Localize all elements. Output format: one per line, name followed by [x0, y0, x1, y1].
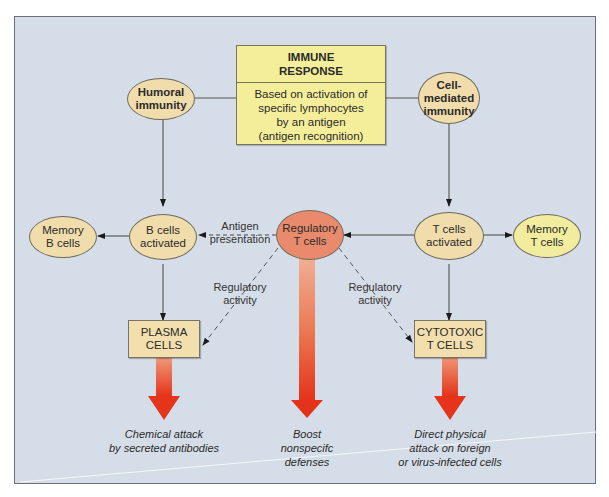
outcome-direct-attack: Direct physical attack on foreign or vir… — [395, 427, 505, 469]
memory-b-cells-node: Memory B cells — [29, 216, 97, 258]
outcome-line: Chemical attack — [104, 427, 224, 441]
outcome-line: Direct physical — [395, 427, 505, 441]
outcome-chemical-attack: Chemical attack by secreted antibodies — [104, 427, 224, 455]
red-arrow-plasma — [148, 358, 180, 420]
label-line: Antigen — [205, 220, 275, 233]
immune-response-description: Based on activation of specific lymphocy… — [237, 83, 385, 143]
node-label: T cells — [432, 223, 465, 236]
node-label: B cells — [146, 224, 180, 237]
node-label: activated — [426, 236, 472, 249]
regulatory-activity-right-label: Regulatory activity — [340, 281, 410, 307]
node-label: CELLS — [146, 339, 182, 352]
humoral-immunity-node: Humoral immunity — [127, 78, 195, 120]
antigen-presentation-label: Antigen presentation — [205, 220, 275, 246]
label-line: Regulatory — [205, 281, 275, 294]
label-line: activity — [340, 294, 410, 307]
cytotoxic-t-cells-box: CYTOTOXIC T CELLS — [414, 320, 486, 358]
node-label: Cell- — [437, 79, 462, 92]
node-label: mediated — [424, 92, 475, 105]
node-label: immunity — [135, 99, 186, 112]
outcome-line: Boost — [267, 427, 347, 441]
node-label: T cells — [293, 235, 326, 248]
node-label: T cells — [530, 236, 563, 249]
node-label: T CELLS — [427, 339, 473, 352]
node-label: Memory — [42, 224, 84, 237]
description-line: Based on activation of — [237, 87, 385, 101]
description-line: (antigen recognition) — [237, 129, 385, 143]
label-line: Regulatory — [340, 281, 410, 294]
node-label: activated — [140, 237, 186, 250]
node-label: immunity — [423, 105, 474, 118]
node-label: Humoral — [138, 86, 185, 99]
outcome-line: attack on foreign — [395, 441, 505, 455]
immune-response-box: IMMUNE RESPONSE Based on activation of s… — [236, 45, 386, 145]
red-arrow-cytotoxic — [434, 356, 466, 420]
label-line: activity — [205, 294, 275, 307]
plasma-cells-box: PLASMA CELLS — [128, 320, 200, 358]
red-arrow-regulatory — [291, 256, 323, 418]
node-label: B cells — [46, 237, 80, 250]
title-line: RESPONSE — [279, 64, 343, 78]
node-label: Memory — [526, 223, 568, 236]
description-line: specific lymphocytes — [237, 101, 385, 115]
regulatory-t-cells-node: Regulatory T cells — [276, 210, 344, 260]
outcome-line: defenses — [267, 455, 347, 469]
outcome-line: by secreted antibodies — [104, 441, 224, 455]
t-cells-activated-node: T cells activated — [414, 212, 484, 260]
cell-mediated-immunity-node: Cell- mediated immunity — [418, 72, 480, 124]
memory-t-cells-node: Memory T cells — [513, 214, 581, 258]
regulatory-activity-left-label: Regulatory activity — [205, 281, 275, 307]
immune-response-title: IMMUNE RESPONSE — [237, 46, 385, 83]
node-label: Regulatory — [282, 222, 338, 235]
description-line: by an antigen — [237, 115, 385, 129]
node-label: CYTOTOXIC — [417, 326, 484, 339]
outcome-line: nonspecifc — [267, 441, 347, 455]
node-label: PLASMA — [141, 326, 188, 339]
outcome-boost-defenses: Boost nonspecifc defenses — [267, 427, 347, 469]
outcome-line: or virus-infected cells — [395, 455, 505, 469]
label-line: presentation — [205, 233, 275, 246]
b-cells-activated-node: B cells activated — [129, 214, 197, 260]
title-line: IMMUNE — [288, 50, 335, 64]
